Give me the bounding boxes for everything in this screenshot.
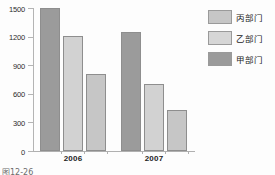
y-axis-tick: 900 — [28, 65, 33, 66]
bar — [86, 74, 106, 151]
legend-label: 乙部门 — [236, 32, 263, 44]
x-axis-minor-tick — [188, 151, 189, 154]
y-axis-line — [33, 8, 34, 151]
bar — [63, 36, 83, 151]
y-axis-tick-label: 600 — [13, 90, 25, 99]
bar-face — [87, 75, 105, 150]
legend-item: 甲部门 — [208, 52, 263, 66]
bar — [40, 8, 60, 151]
x-axis-minor-tick — [61, 151, 62, 154]
bar-face — [122, 33, 140, 150]
y-axis-tick: 600 — [28, 94, 33, 95]
legend-item: 丙部门 — [208, 10, 263, 24]
legend-label: 丙部门 — [236, 11, 263, 23]
legend-swatch — [208, 10, 232, 24]
y-axis-tick: 1200 — [28, 37, 33, 38]
x-axis-group-label: 2006 — [64, 154, 83, 163]
x-axis-minor-tick — [142, 151, 143, 154]
x-axis-minor-tick — [107, 151, 108, 154]
legend-swatch — [208, 31, 232, 45]
bar-face — [64, 37, 82, 150]
bar-face — [41, 9, 59, 150]
y-axis-tick-label: 300 — [13, 118, 25, 127]
figure-caption: 图12-26 — [2, 166, 33, 175]
x-axis-minor-tick — [84, 151, 85, 154]
y-axis-tick: 0 — [28, 151, 33, 152]
x-axis-group-label: 2007 — [145, 154, 164, 163]
bar-face — [168, 111, 186, 150]
chart-legend: 丙部门乙部门甲部门 — [208, 10, 263, 66]
y-axis-tick-label: 0 — [21, 147, 25, 156]
plot-area: 030060090012001500 20062007 — [33, 8, 193, 151]
bar — [144, 84, 164, 151]
y-axis-tick-label: 1500 — [9, 4, 25, 13]
bar-face — [145, 85, 163, 150]
y-axis-tick: 300 — [28, 122, 33, 123]
legend-item: 乙部门 — [208, 31, 263, 45]
legend-label: 甲部门 — [236, 53, 263, 65]
bar — [167, 110, 187, 151]
legend-swatch — [208, 52, 232, 66]
x-axis-minor-tick — [165, 151, 166, 154]
y-axis-tick-label: 900 — [13, 61, 25, 70]
y-axis-tick-label: 1200 — [9, 33, 25, 42]
x-axis-line — [33, 151, 195, 152]
y-axis-tick: 1500 — [28, 8, 33, 9]
bar — [121, 32, 141, 151]
bar-chart-figure: 030060090012001500 20062007 丙部门乙部门甲部门 图1… — [0, 0, 275, 175]
